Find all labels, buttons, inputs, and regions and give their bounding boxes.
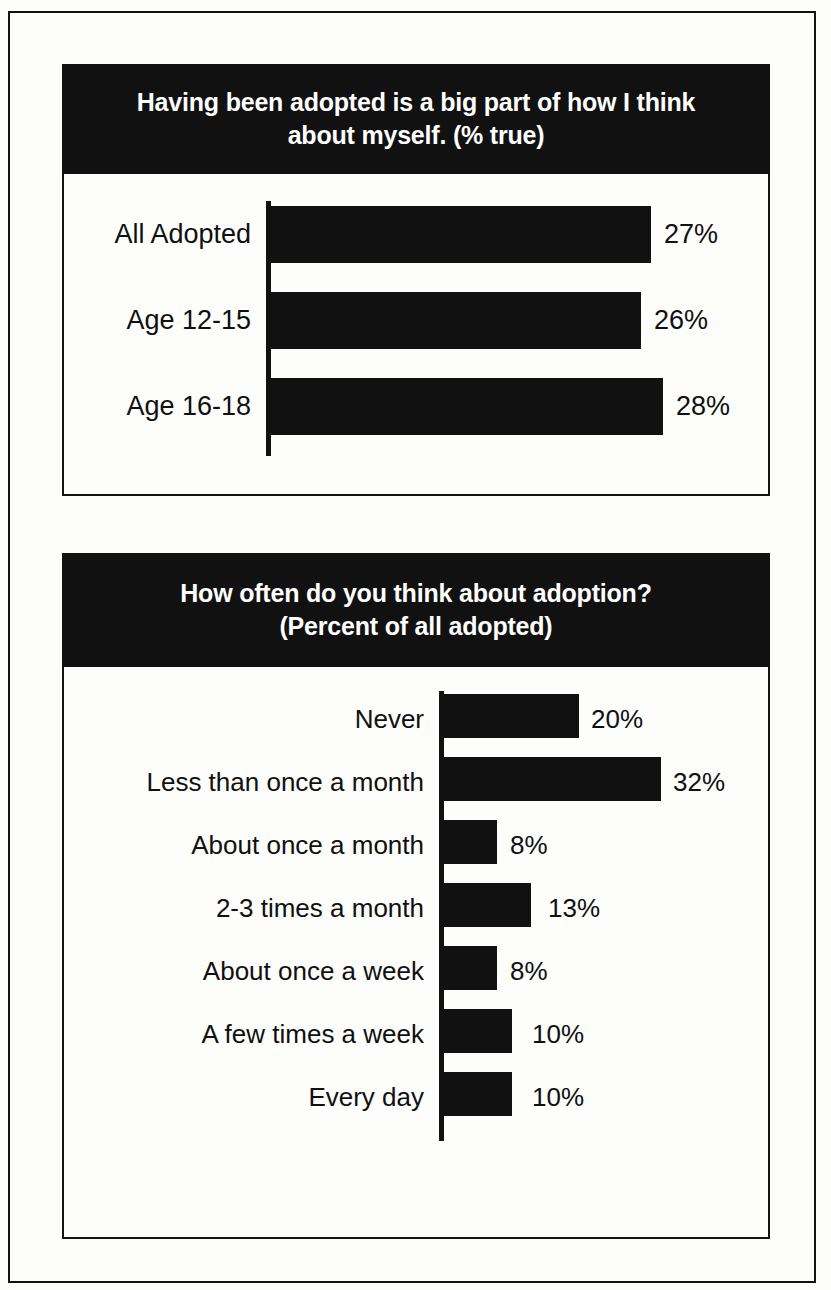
chart-1-bar-1: [269, 292, 641, 349]
chart-1-category-label-1: Age 12-15: [64, 307, 251, 334]
chart-2-value-label-3: 13%: [548, 895, 600, 921]
chart-2-category-label-4: About once a week: [64, 958, 424, 984]
chart-panel-2: How often do you think about adoption? (…: [62, 553, 770, 1239]
chart-2-value-label-0: 20%: [591, 706, 643, 732]
chart-1-bars: All Adopted 27% Age 12-15 26% Age 16-18 …: [64, 174, 768, 494]
chart-2-category-label-3: 2-3 times a month: [64, 895, 424, 921]
chart-2-bar-3: [442, 883, 531, 927]
chart-2-bars: Never 20% Less than once a month 32% Abo…: [64, 667, 768, 1237]
chart-2-plot-area: Never 20% Less than once a month 32% Abo…: [62, 667, 770, 1239]
outer-frame: Having been adopted is a big part of how…: [8, 11, 816, 1283]
page-root: Having been adopted is a big part of how…: [0, 0, 831, 1290]
chart-1-value-label-0: 27%: [664, 221, 718, 248]
chart-2-category-label-5: A few times a week: [64, 1021, 424, 1047]
chart-2-value-label-5: 10%: [532, 1021, 584, 1047]
chart-1-header: Having been adopted is a big part of how…: [62, 64, 770, 174]
chart-2-title-line-1: How often do you think about adoption?: [180, 577, 652, 610]
chart-2-bar-0: [442, 694, 579, 738]
chart-2-category-label-1: Less than once a month: [64, 769, 424, 795]
chart-2-bar-4: [442, 946, 497, 990]
chart-1-title-line-1: Having been adopted is a big part of how…: [137, 86, 696, 119]
chart-1-value-label-1: 26%: [654, 307, 708, 334]
chart-2-value-label-4: 8%: [510, 958, 548, 984]
chart-2-value-label-2: 8%: [510, 832, 548, 858]
chart-1-plot-area: All Adopted 27% Age 12-15 26% Age 16-18 …: [62, 174, 770, 496]
chart-1-value-label-2: 28%: [676, 393, 730, 420]
chart-2-category-label-2: About once a month: [64, 832, 424, 858]
chart-2-header: How often do you think about adoption? (…: [62, 553, 770, 667]
chart-panel-1: Having been adopted is a big part of how…: [62, 64, 770, 496]
chart-2-bar-1: [442, 757, 661, 801]
chart-1-bar-0: [269, 206, 651, 263]
chart-2-category-label-0: Never: [64, 706, 424, 732]
chart-2-bar-2: [442, 820, 497, 864]
chart-1-category-label-2: Age 16-18: [64, 393, 251, 420]
chart-2-category-label-6: Every day: [64, 1084, 424, 1110]
chart-2-bar-5: [442, 1009, 512, 1053]
chart-2-value-label-1: 32%: [673, 769, 725, 795]
chart-2-value-label-6: 10%: [532, 1084, 584, 1110]
chart-1-category-label-0: All Adopted: [64, 221, 251, 248]
chart-1-bar-2: [269, 378, 663, 435]
chart-1-title-line-2: about myself. (% true): [288, 119, 545, 152]
chart-2-bar-6: [442, 1072, 512, 1116]
chart-2-title-line-2: (Percent of all adopted): [279, 610, 552, 643]
